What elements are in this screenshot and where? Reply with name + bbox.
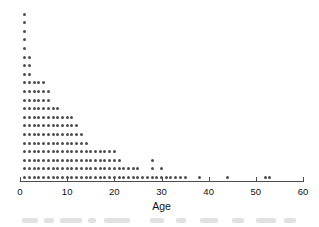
data-point — [127, 167, 130, 170]
data-point — [66, 124, 69, 127]
data-point — [75, 142, 78, 145]
x-axis-tick — [303, 177, 304, 182]
data-point — [47, 142, 50, 145]
data-point — [52, 176, 55, 179]
data-point — [61, 142, 64, 145]
data-point — [47, 150, 50, 153]
data-point — [103, 176, 106, 179]
data-point — [37, 99, 40, 102]
data-point — [75, 150, 78, 153]
data-point — [70, 150, 73, 153]
data-point — [66, 142, 69, 145]
x-axis-tick-label: 60 — [288, 186, 318, 197]
data-point — [28, 150, 31, 153]
data-point — [47, 124, 50, 127]
data-point — [66, 167, 69, 170]
data-point — [23, 167, 26, 170]
data-point — [33, 176, 36, 179]
data-point — [61, 159, 64, 162]
data-point — [28, 64, 31, 67]
data-point — [23, 30, 26, 33]
x-axis-title: Age — [3, 200, 319, 212]
data-point — [28, 107, 31, 110]
data-point — [155, 176, 158, 179]
data-point — [70, 142, 73, 145]
data-point — [103, 167, 106, 170]
data-point — [56, 176, 59, 179]
data-point — [23, 47, 26, 50]
data-point — [28, 81, 31, 84]
data-point — [42, 124, 45, 127]
data-point — [56, 107, 59, 110]
caption-artifact — [44, 218, 54, 223]
caption-artifact — [104, 218, 130, 223]
data-point — [33, 90, 36, 93]
data-point — [80, 159, 83, 162]
data-point — [61, 176, 64, 179]
data-point — [89, 167, 92, 170]
data-point — [75, 133, 78, 136]
data-point — [42, 176, 45, 179]
data-point — [37, 167, 40, 170]
data-point — [42, 150, 45, 153]
data-point — [23, 81, 26, 84]
data-point — [151, 167, 154, 170]
data-point — [37, 116, 40, 119]
caption-artifact — [60, 218, 82, 223]
data-point — [23, 142, 26, 145]
data-point — [132, 167, 135, 170]
data-point — [118, 176, 121, 179]
data-point — [70, 116, 73, 119]
data-point — [42, 81, 45, 84]
data-point — [33, 133, 36, 136]
data-point — [268, 176, 271, 179]
data-point — [52, 107, 55, 110]
data-point — [108, 150, 111, 153]
data-point — [103, 150, 106, 153]
x-axis-tick-label: 30 — [147, 186, 177, 197]
data-point — [42, 167, 45, 170]
data-point — [118, 167, 121, 170]
data-point — [23, 159, 26, 162]
data-point — [28, 116, 31, 119]
data-point — [28, 99, 31, 102]
data-point — [23, 107, 26, 110]
data-point — [99, 176, 102, 179]
data-point — [47, 176, 50, 179]
data-point — [80, 176, 83, 179]
data-point — [28, 73, 31, 76]
data-point — [33, 107, 36, 110]
data-point — [66, 150, 69, 153]
data-point — [85, 142, 88, 145]
data-point — [56, 133, 59, 136]
data-point — [61, 116, 64, 119]
data-point — [47, 167, 50, 170]
data-point — [33, 99, 36, 102]
data-point — [37, 150, 40, 153]
x-axis-tick-label: 10 — [52, 186, 82, 197]
plot-area — [0, 0, 318, 186]
data-point — [70, 176, 73, 179]
data-point — [151, 176, 154, 179]
data-point — [23, 13, 26, 16]
data-point — [99, 159, 102, 162]
data-point — [70, 159, 73, 162]
data-point — [52, 133, 55, 136]
data-point — [151, 159, 154, 162]
caption-artifact — [200, 218, 218, 223]
data-point — [226, 176, 229, 179]
data-point — [179, 176, 182, 179]
data-point — [122, 176, 125, 179]
x-axis-tick — [20, 177, 21, 182]
data-point — [28, 124, 31, 127]
data-point — [42, 116, 45, 119]
data-point — [37, 124, 40, 127]
data-point — [61, 167, 64, 170]
data-point — [141, 176, 144, 179]
data-point — [89, 176, 92, 179]
data-point — [56, 116, 59, 119]
data-point — [132, 176, 135, 179]
data-point — [33, 116, 36, 119]
data-point — [23, 99, 26, 102]
caption-artifact — [22, 218, 38, 223]
